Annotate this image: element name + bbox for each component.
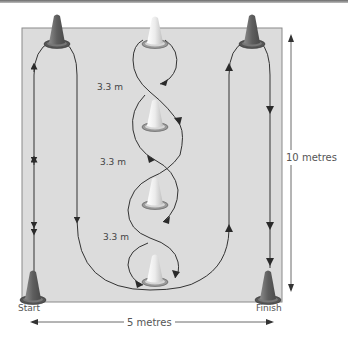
height-label: 10 metres	[286, 150, 337, 165]
finish-label: Finish	[256, 303, 282, 313]
width-label: 5 metres	[124, 317, 175, 328]
weave-distance-1: 3.3 m	[97, 82, 123, 92]
weave-distance-2: 3.3 m	[100, 157, 126, 167]
start-label: Start	[18, 303, 40, 313]
drill-diagram	[0, 0, 348, 338]
weave-distance-3: 3.3 m	[103, 232, 129, 242]
